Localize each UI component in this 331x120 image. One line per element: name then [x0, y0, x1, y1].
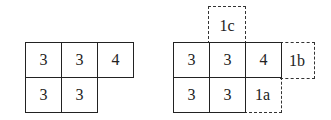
- dashed-cell-1b: 1b: [280, 42, 315, 79]
- left-cell-r0c2: 4: [97, 42, 134, 78]
- left-cell-r0c1: 3: [61, 42, 98, 78]
- left-cell-r1c1: 3: [61, 77, 98, 113]
- right-cell-r1c1: 3: [209, 77, 246, 113]
- right-cell-r1c0: 3: [173, 77, 210, 113]
- dashed-cell-1c: 1c: [208, 6, 246, 44]
- left-cell-r1c0: 3: [25, 77, 62, 113]
- right-cell-r0c0: 3: [173, 42, 210, 78]
- dashed-cell-1a: 1a: [244, 77, 282, 113]
- right-cell-r0c2: 4: [245, 42, 282, 78]
- right-cell-r0c1: 3: [209, 42, 246, 78]
- left-cell-r0c0: 3: [25, 42, 62, 78]
